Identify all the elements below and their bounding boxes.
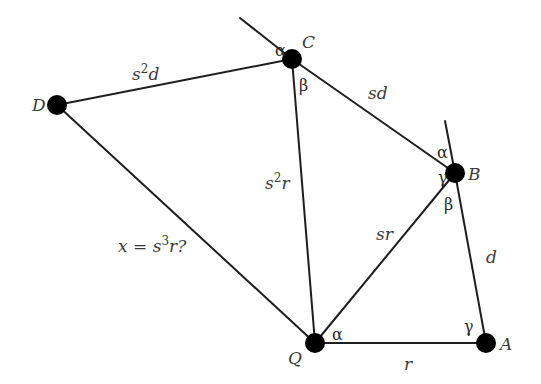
angle-gamma-at-a: γ xyxy=(464,317,474,336)
edge-label-cq: s2r xyxy=(265,171,290,193)
angle-alpha-at-c: α xyxy=(275,41,286,60)
angle-alpha-at-b: α xyxy=(437,143,448,162)
point-b xyxy=(445,163,465,183)
edge-labels: s2dx = s3r?s2rsdsrdr xyxy=(118,62,497,374)
point-d xyxy=(47,95,67,115)
edge-label-cb: sd xyxy=(368,83,388,103)
edge-qb xyxy=(315,173,455,343)
point-labels: DCBQA xyxy=(31,32,512,368)
edge-label-dc: s2d xyxy=(132,62,159,84)
point-label-c: C xyxy=(302,32,315,52)
angle-alpha-at-q: α xyxy=(332,325,343,344)
geometry-diagram: s2dx = s3r?s2rsdsrdr αβαγβαγ DCBQA xyxy=(0,0,541,384)
point-q xyxy=(305,333,325,353)
edge-label-qb: sr xyxy=(376,224,394,244)
angle-gamma-at-b: γ xyxy=(438,168,448,187)
edge-label-qa: r xyxy=(404,354,413,374)
angle-beta-at-c: β xyxy=(299,76,308,95)
point-a xyxy=(476,333,496,353)
point-label-a: A xyxy=(498,334,512,354)
edge-cb xyxy=(292,59,455,173)
edge-dq xyxy=(57,105,315,343)
edge-dc xyxy=(57,59,292,105)
edge-label-dq: x = s3r? xyxy=(118,234,187,256)
edge-label-ba: d xyxy=(486,247,497,267)
point-label-b: B xyxy=(467,164,481,184)
point-label-q: Q xyxy=(288,348,302,368)
edge-cq xyxy=(292,59,315,343)
angle-beta-at-b: β xyxy=(444,195,453,214)
edges xyxy=(57,59,486,343)
point-label-d: D xyxy=(31,95,46,115)
